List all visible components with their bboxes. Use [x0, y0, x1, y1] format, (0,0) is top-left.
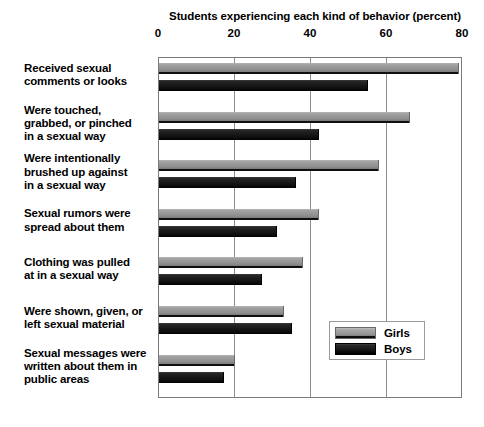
category-label-line: grabbed, or pinched	[24, 117, 156, 130]
bar-chart: Students experiencing each kind of behav…	[0, 0, 484, 427]
bar-boys-3	[159, 226, 277, 237]
category-label-line: Clothing was pulled	[24, 256, 156, 269]
category-label-line: comments or looks	[24, 75, 156, 88]
category-label-line: Sexual messages were	[24, 347, 156, 360]
x-tick-label-80: 80	[456, 27, 469, 39]
x-tick-label-20: 20	[228, 27, 241, 39]
category-label-0: Received sexualcomments or looks	[24, 62, 156, 89]
category-label-line: in a sexual way	[24, 130, 156, 143]
bar-boys-4	[159, 274, 262, 285]
category-label-5: Were shown, given, orleft sexual materia…	[24, 305, 156, 332]
category-label-6: Sexual messages werewritten about them i…	[24, 347, 156, 387]
x-axis-tick-labels: 020406080	[0, 27, 484, 43]
category-label-line: Sexual rumors were	[24, 207, 156, 220]
category-label-4: Clothing was pulledat in a sexual way	[24, 256, 156, 283]
category-label-line: Were shown, given, or	[24, 305, 156, 318]
bar-girls-5	[159, 306, 284, 317]
bar-girls-6	[159, 355, 235, 366]
legend-item-girls: Girls	[335, 326, 419, 340]
category-label-line: left sexual material	[24, 318, 156, 331]
category-label-line: in a sexual way	[24, 179, 156, 192]
x-tick-label-40: 40	[304, 27, 317, 39]
legend-item-boys: Boys	[335, 342, 419, 356]
bar-girls-0	[159, 63, 459, 74]
category-label-line: Were intentionally	[24, 152, 156, 165]
category-label-1: Were touched,grabbed, or pinchedin a sex…	[24, 104, 156, 144]
category-label-line: public areas	[24, 373, 156, 386]
bar-boys-5	[159, 323, 292, 334]
chart-legend: Girls Boys	[329, 321, 425, 360]
bar-boys-6	[159, 372, 224, 383]
legend-label-girls: Girls	[384, 327, 410, 339]
category-label-line: written about them in	[24, 360, 156, 373]
x-tick-label-60: 60	[380, 27, 393, 39]
x-tick-label-0: 0	[155, 27, 161, 39]
bar-girls-2	[159, 160, 379, 171]
chart-title: Students experiencing each kind of behav…	[150, 10, 480, 23]
category-label-line: Received sexual	[24, 62, 156, 75]
category-label-2: Were intentionallybrushed up againstin a…	[24, 152, 156, 192]
category-label-line: brushed up against	[24, 166, 156, 179]
category-label-line: at in a sexual way	[24, 269, 156, 282]
category-label-line: Were touched,	[24, 104, 156, 117]
gridline-40	[310, 58, 311, 397]
bar-boys-0	[159, 80, 368, 91]
bar-boys-1	[159, 129, 319, 140]
legend-swatch-boys-icon	[335, 343, 376, 355]
legend-label-boys: Boys	[384, 343, 412, 355]
category-label-3: Sexual rumors werespread about them	[24, 207, 156, 234]
bar-girls-3	[159, 209, 319, 220]
bar-girls-4	[159, 257, 303, 268]
bar-girls-1	[159, 112, 410, 123]
legend-swatch-girls-icon	[335, 327, 376, 339]
bar-boys-2	[159, 177, 296, 188]
category-label-line: spread about them	[24, 221, 156, 234]
